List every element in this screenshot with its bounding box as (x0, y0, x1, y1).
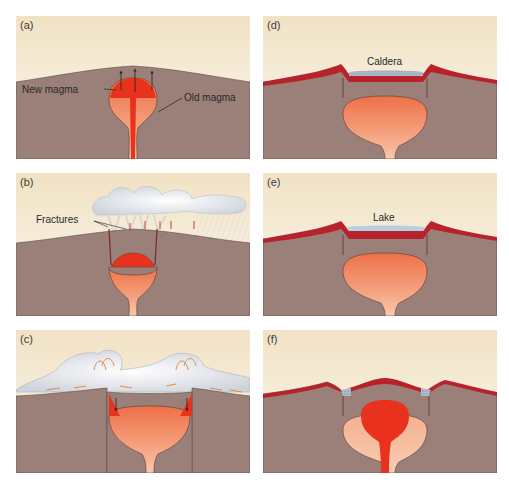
panel-c: (c) (16, 330, 250, 473)
panel-e: (e) Lake (263, 173, 497, 316)
panel-a: (a) New magma Old magma (16, 16, 250, 159)
panel-f: (f) (263, 330, 497, 473)
diagram-lake (263, 173, 497, 316)
annotation-caldera: Caldera (367, 56, 402, 67)
annotation-new-magma: New magma (22, 84, 78, 95)
diagram-eruption-fractures (16, 173, 250, 316)
panel-d: (d) Caldera (263, 16, 497, 159)
panel-b: (b) Fractures (16, 173, 250, 316)
diagram-caldera (263, 16, 497, 159)
panel-label-e: (e) (267, 176, 280, 188)
annotation-lake: Lake (373, 212, 395, 223)
panel-label-f: (f) (267, 333, 277, 345)
diagram-collapse (16, 330, 250, 473)
panel-label-a: (a) (20, 19, 33, 31)
panel-label-c: (c) (20, 333, 33, 345)
panel-label-d: (d) (267, 19, 280, 31)
annotation-fractures: Fractures (36, 214, 78, 225)
panel-label-b: (b) (20, 176, 33, 188)
annotation-old-magma: Old magma (184, 92, 236, 103)
diagram-resurgence (263, 330, 497, 473)
